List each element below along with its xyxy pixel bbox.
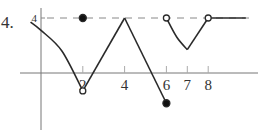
open-circle-2-low [80, 88, 86, 94]
open-circle-6-4 [163, 15, 169, 21]
open-circle-8-4 [205, 15, 211, 21]
segment-2-line-up [83, 18, 125, 91]
segment-1-curve [31, 22, 83, 91]
segment-5-line-up [187, 18, 208, 50]
filled-dot-6-low [163, 100, 170, 107]
y-tick-label: 4 [32, 12, 38, 24]
series [31, 18, 246, 103]
piecewise-function-graph: 246784 [0, 0, 262, 135]
x-tick-label: 6 [163, 77, 171, 93]
segment-3-line-down [125, 18, 167, 103]
segment-4-curve [166, 18, 187, 50]
x-tick-label: 7 [184, 77, 192, 93]
axes [20, 8, 258, 130]
x-tick-label: 8 [204, 77, 212, 93]
filled-dot-2-4 [79, 15, 86, 22]
x-tick-label: 4 [121, 77, 129, 93]
